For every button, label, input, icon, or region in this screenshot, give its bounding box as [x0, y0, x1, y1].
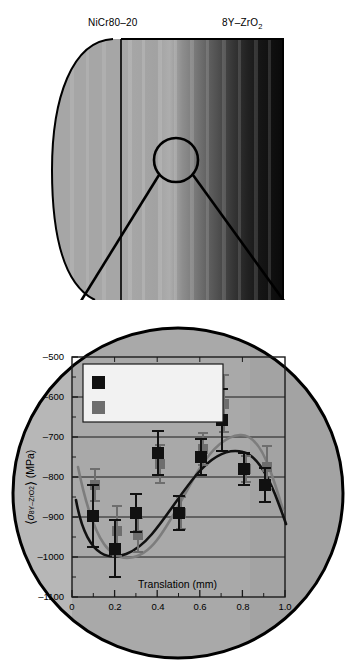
- top-panel-right-material-label: 8Y–ZrO2: [222, 17, 263, 31]
- y-tick-label-6: –1100: [14, 591, 64, 602]
- top-panel-graphic: [0, 0, 355, 300]
- y-tick-label-5: –1000: [14, 551, 64, 562]
- x-tick-label-2: 0.4: [146, 601, 170, 612]
- x-tick-label-3: 0.6: [188, 601, 212, 612]
- coating-gradient-region: [121, 39, 283, 300]
- x-tick-label-0: 0: [62, 601, 82, 612]
- y-axis-title: ⟨σ8Y–ZrO2⟩ (MPa): [23, 418, 38, 558]
- legend-marker-axial: [92, 401, 105, 414]
- top-panel-left-material-label: NiCr80–20: [88, 17, 138, 28]
- x-axis-title: Translation (mm): [0, 578, 355, 590]
- y-tick-label-0: –500: [14, 351, 64, 362]
- y-tick-label-2: –700: [14, 431, 64, 442]
- x-tick-label-1: 0.2: [103, 601, 127, 612]
- x-tick-label-5: 1.0: [273, 601, 297, 612]
- chart-legend: [83, 364, 223, 422]
- x-tick-label-4: 0.8: [231, 601, 255, 612]
- legend-marker-in-plane: [92, 376, 105, 389]
- top-panel-micrograph: NiCr80–20 8Y–ZrO2: [0, 0, 355, 300]
- y-tick-label-1: –600: [14, 391, 64, 402]
- figure-container: NiCr80–20 8Y–ZrO2: [0, 0, 355, 663]
- y-tick-label-4: –900: [14, 511, 64, 522]
- y-tick-label-3: –800: [14, 471, 64, 482]
